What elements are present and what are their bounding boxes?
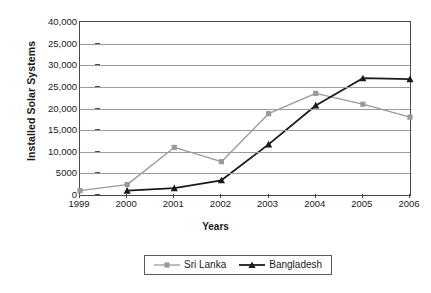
- chart-legend: Sri LankaBangladesh: [144, 255, 332, 275]
- y-tick-label: 40,000: [25, 16, 77, 27]
- x-tick-mark: [315, 194, 316, 198]
- x-tick-label: 2003: [241, 198, 295, 209]
- x-tick-label: 2004: [288, 198, 342, 209]
- gridline: [80, 87, 410, 88]
- y-tick-label: 15,000: [25, 124, 77, 135]
- x-axis-title: Years: [0, 221, 431, 232]
- y-axis-tick-labels: 40,00025,00030,00025,00020,00015,00010,0…: [21, 21, 77, 194]
- legend-swatch-triangle-icon: [239, 260, 265, 270]
- legend-label: Sri Lanka: [184, 259, 226, 270]
- gridline: [80, 44, 410, 45]
- gridline: [80, 152, 410, 153]
- x-tick-mark: [268, 194, 269, 198]
- y-tick-label: 25,000: [25, 37, 77, 48]
- y-tick-label: 5000: [25, 167, 77, 178]
- x-tick-mark: [220, 194, 221, 198]
- legend-entry-bangladesh[interactable]: Bangladesh: [239, 259, 322, 270]
- x-tick-mark: [79, 194, 80, 198]
- y-tick-label: 25,000: [25, 80, 77, 91]
- solar-systems-line-chart: Installed Solar Systems 40,00025,00030,0…: [0, 0, 431, 293]
- plot-area: [79, 21, 411, 196]
- data-point-marker: [360, 102, 365, 107]
- legend-label: Bangladesh: [269, 259, 322, 270]
- x-tick-mark: [409, 194, 410, 198]
- gridline: [80, 130, 410, 131]
- x-tick-mark: [173, 194, 174, 198]
- data-point-marker: [219, 159, 224, 164]
- x-tick-label: 2002: [193, 198, 247, 209]
- data-point-marker: [266, 111, 271, 116]
- gridline: [80, 109, 410, 110]
- x-tick-mark: [362, 194, 363, 198]
- y-tick-label: 20,000: [25, 102, 77, 113]
- legend-entry-sri-lanka[interactable]: Sri Lanka: [154, 259, 226, 270]
- data-point-marker: [172, 145, 177, 150]
- x-tick-label: 2006: [382, 198, 431, 209]
- data-point-marker: [313, 91, 318, 96]
- x-tick-label: 2000: [99, 198, 153, 209]
- data-point-marker: [407, 115, 412, 120]
- data-point-marker: [77, 188, 82, 193]
- x-axis-tick-labels: 19992000200120022003200420052006: [79, 198, 411, 216]
- gridline: [80, 173, 410, 174]
- y-tick-label: 10,000: [25, 145, 77, 156]
- x-tick-label: 2005: [335, 198, 389, 209]
- data-point-marker: [125, 182, 130, 187]
- x-tick-mark: [126, 194, 127, 198]
- y-tick-label: 30,000: [25, 59, 77, 70]
- gridline: [80, 65, 410, 66]
- x-tick-label: 1999: [52, 198, 106, 209]
- x-tick-label: 2001: [146, 198, 200, 209]
- legend-swatch-square-icon: [154, 260, 180, 270]
